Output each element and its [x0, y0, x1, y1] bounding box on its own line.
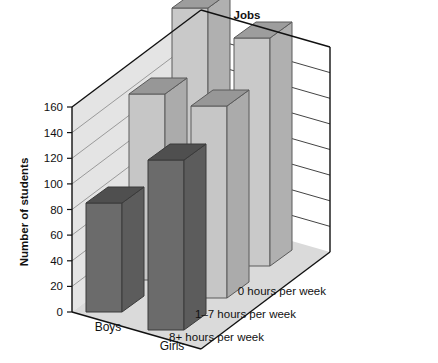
y-tick-labels: 0 20 40 60 80 100 120 140 160	[44, 101, 63, 318]
y-tick-label-160: 160	[44, 101, 63, 113]
bar-face-side	[184, 144, 206, 330]
x-label-boys: Boys	[95, 320, 122, 334]
bar-face-side	[122, 187, 144, 312]
y-tick-marks	[67, 107, 72, 312]
y-tick-label-60: 60	[50, 229, 63, 241]
bar-face-side	[227, 90, 249, 298]
bar-girls-8-plus-hours	[148, 144, 206, 330]
depth-label-0-hours: 0 hours per week	[238, 285, 326, 297]
bar-face-front	[86, 203, 122, 312]
y-tick-label-0: 0	[57, 306, 63, 318]
bar-chart-3d: Part-Time Jobs Number of students	[0, 0, 438, 363]
y-tick-label-40: 40	[50, 255, 63, 267]
bar-boys-8-plus-hours	[86, 187, 144, 312]
y-tick-label-120: 120	[44, 152, 63, 164]
y-axis-label: Number of students	[18, 158, 30, 267]
y-tick-label-20: 20	[50, 280, 63, 292]
y-tick-label-80: 80	[50, 204, 63, 216]
bar-face-side	[270, 22, 292, 266]
bar-face-front	[148, 160, 184, 330]
y-tick-label-140: 140	[44, 127, 63, 139]
y-tick-label-100: 100	[44, 178, 63, 190]
depth-label-1-7-hours: 1–7 hours per week	[195, 308, 296, 320]
depth-label-8-plus-hours: 8+ hours per week	[169, 331, 264, 343]
chart-page: Part-Time Jobs Number of students	[0, 0, 438, 363]
